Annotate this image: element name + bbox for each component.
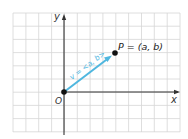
y-axis-arrow-icon [62, 14, 66, 20]
x-axis-label: x [170, 94, 177, 105]
origin-point [61, 89, 67, 95]
grid [13, 13, 180, 132]
y-axis-label: y [53, 11, 61, 22]
point-p [112, 50, 118, 56]
origin-label: O [55, 96, 62, 106]
vector-label: v = <a, b> [68, 49, 107, 82]
point-p-label: P = (a, b) [118, 41, 163, 52]
vector-diagram: x y O v = <a, b> P = (a, b) [0, 0, 188, 139]
